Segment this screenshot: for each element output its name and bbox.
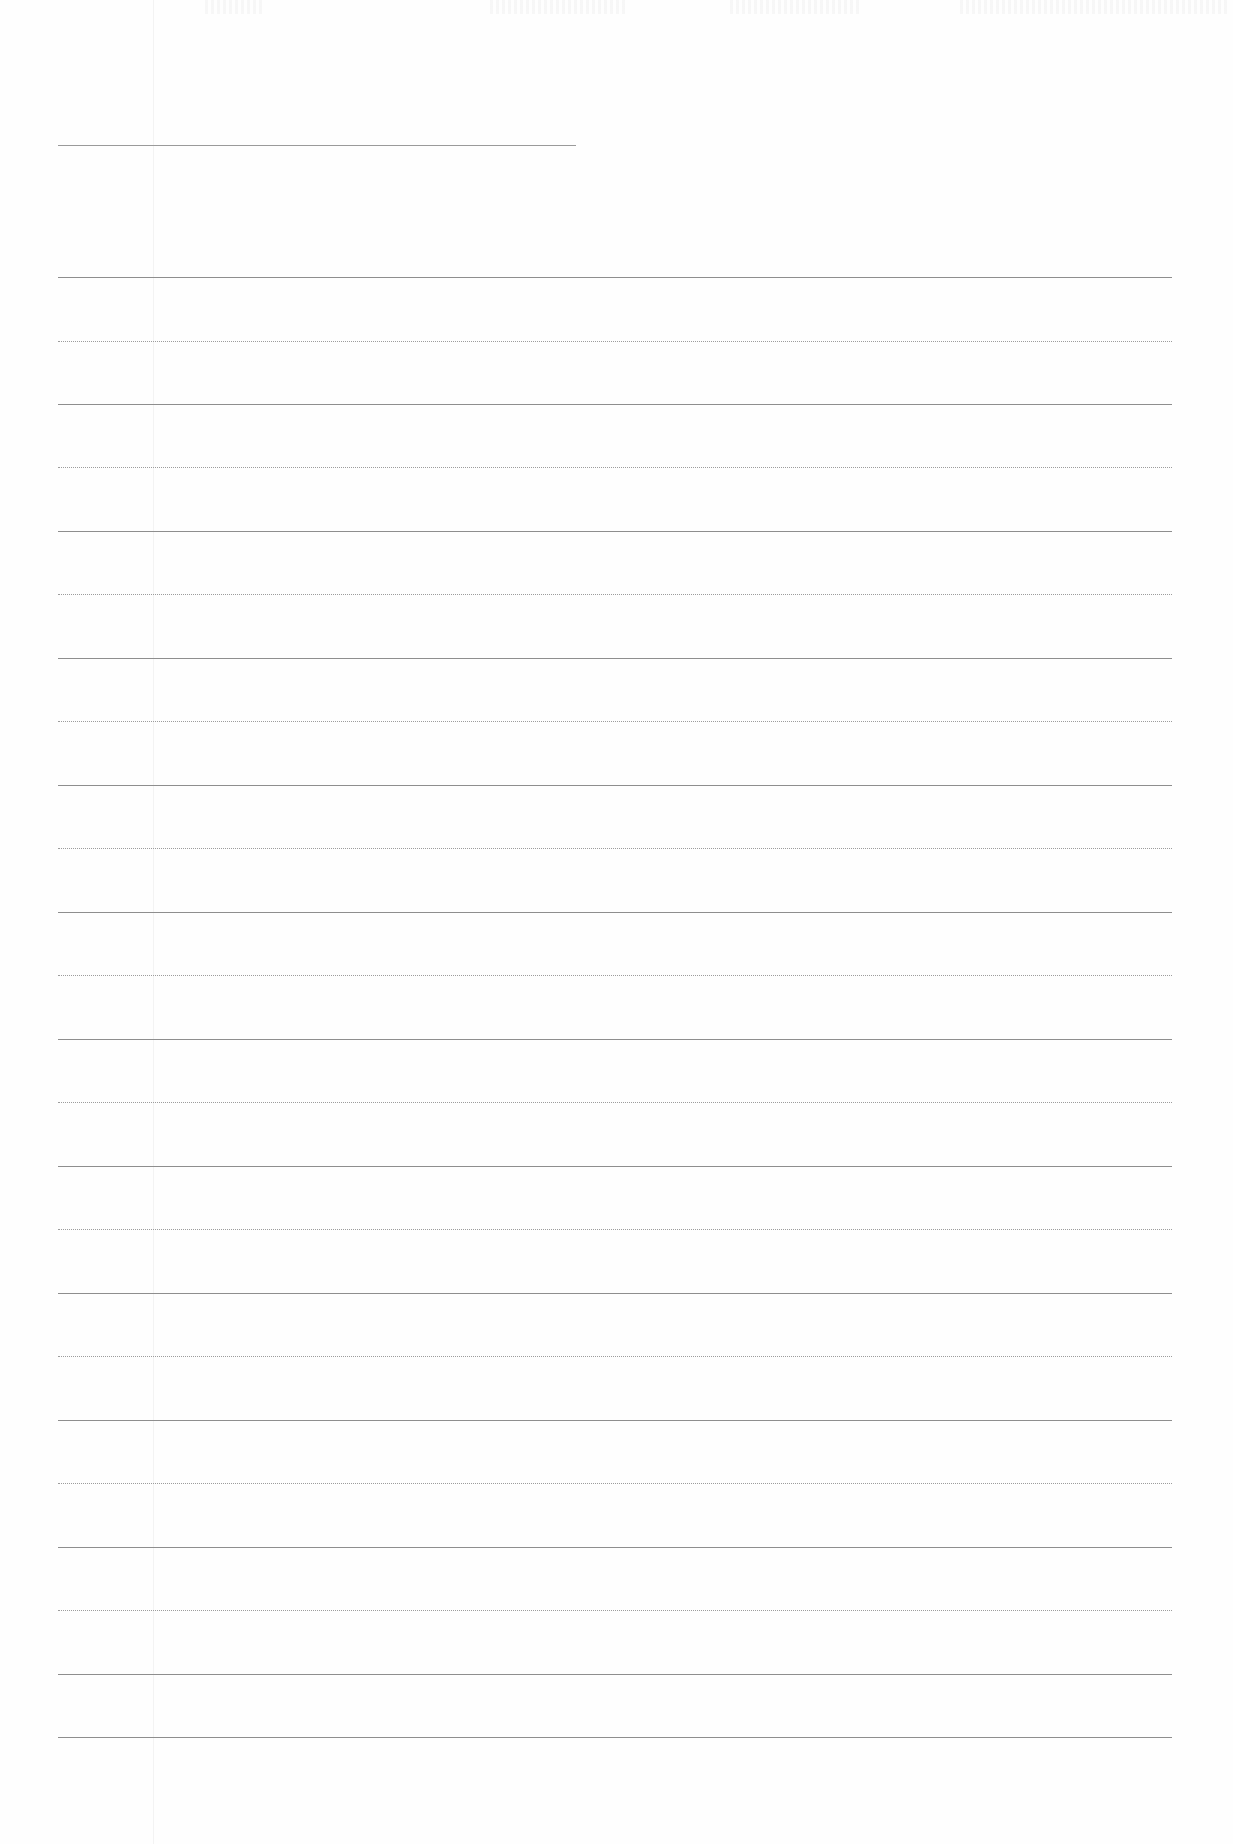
ruled-line [58,912,1172,913]
header-line [58,145,576,146]
ruled-line [58,404,1172,405]
ruled-line [58,277,1172,278]
ruled-line [58,1229,1172,1230]
ruled-line [58,975,1172,976]
ruled-line [58,1166,1172,1167]
ruled-line [58,341,1172,342]
ruled-line [58,1737,1172,1738]
ruled-line [58,1547,1172,1548]
ruled-line [58,1610,1172,1611]
ruled-line [58,594,1172,595]
ruled-line [58,721,1172,722]
ruled-line [58,1293,1172,1294]
bleed-through-mark [205,0,263,14]
ruled-line [58,1039,1172,1040]
ruled-line [58,848,1172,849]
ruled-line [58,1674,1172,1675]
bleed-through-mark [730,0,860,14]
notebook-page [0,0,1233,1844]
ruled-line [58,1420,1172,1421]
ruled-line [58,1102,1172,1103]
ruled-line [58,785,1172,786]
bleed-through-mark [490,0,625,14]
ruled-line [58,531,1172,532]
ruled-line [58,467,1172,468]
ruled-line [58,1483,1172,1484]
bleed-through-mark [960,0,1230,14]
ruled-line [58,658,1172,659]
ruled-line [58,1356,1172,1357]
